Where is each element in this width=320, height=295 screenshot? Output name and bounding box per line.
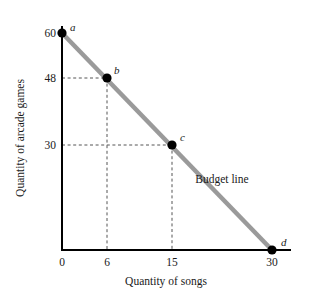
data-point-b [102, 73, 111, 82]
data-point-c [167, 140, 176, 149]
y-tick-label-60: 60 [45, 27, 57, 39]
y-axis-title: Quantity of arcade games [14, 79, 27, 197]
budget-line-series [62, 33, 272, 250]
y-tick-label-30: 30 [45, 139, 57, 151]
point-label-d: d [281, 236, 287, 248]
budget-line-chart: a b c d 60 48 30 0 6 15 30 Budget line Q… [0, 0, 320, 295]
x-tick-label-15: 15 [166, 256, 178, 268]
point-label-c: c [180, 131, 185, 143]
x-tick-label-0: 0 [59, 256, 65, 268]
x-tick-label-30: 30 [266, 256, 278, 268]
x-axis-title: Quantity of songs [125, 275, 207, 288]
y-tick-label-48: 48 [45, 72, 57, 84]
data-point-d [267, 245, 276, 254]
budget-line-annotation: Budget line [195, 173, 248, 186]
chart-canvas: a b c d 60 48 30 0 6 15 30 Budget line Q… [0, 0, 320, 295]
data-point-a [57, 28, 66, 37]
x-tick-label-6: 6 [104, 256, 110, 268]
point-label-a: a [70, 21, 76, 33]
point-label-b: b [114, 64, 120, 76]
